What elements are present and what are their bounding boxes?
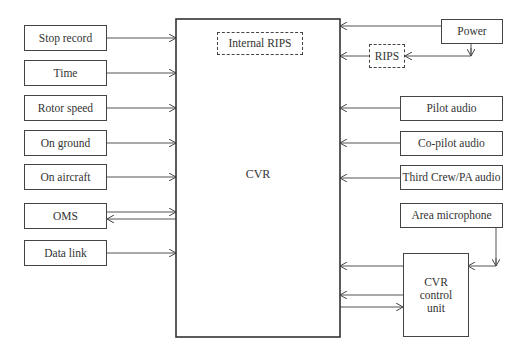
data-link-label: Data link <box>44 247 86 260</box>
copilot-audio-box: Co-pilot audio <box>400 131 503 156</box>
stop-record-box: Stop record <box>24 25 107 51</box>
copilot-audio-label: Co-pilot audio <box>418 137 485 150</box>
third-crew-audio-box: Third Crew/PA audio <box>400 165 503 190</box>
on-ground-box: On ground <box>24 130 107 156</box>
time-label: Time <box>54 67 78 80</box>
pilot-audio-label: Pilot audio <box>426 102 476 115</box>
internal-rips-box: Internal RIPS <box>217 32 303 55</box>
rotor-speed-box: Rotor speed <box>24 95 107 121</box>
rips-label: RIPS <box>375 50 399 63</box>
rips-box: RIPS <box>369 44 405 68</box>
internal-rips-label: Internal RIPS <box>229 37 292 50</box>
third-crew-audio-label: Third Crew/PA audio <box>403 171 501 184</box>
control-unit-line3: unit <box>427 302 445 315</box>
power-box: Power <box>441 19 503 44</box>
pilot-audio-box: Pilot audio <box>400 96 503 121</box>
stop-record-label: Stop record <box>39 32 92 45</box>
area-microphone-box: Area microphone <box>400 203 503 228</box>
cvr-label-area: CVR <box>176 19 340 337</box>
time-box: Time <box>24 60 107 86</box>
control-unit-line1: CVR <box>424 276 448 289</box>
cvr-label: CVR <box>246 168 271 181</box>
cvr-control-unit-box: CVR control unit <box>403 253 469 337</box>
control-unit-line2: control <box>420 289 453 302</box>
on-aircraft-label: On aircraft <box>40 171 90 184</box>
oms-label: OMS <box>53 210 78 223</box>
on-ground-label: On ground <box>41 137 91 150</box>
oms-box: OMS <box>24 203 107 229</box>
power-label: Power <box>457 25 486 38</box>
rotor-speed-label: Rotor speed <box>38 102 93 115</box>
on-aircraft-box: On aircraft <box>24 164 107 190</box>
area-microphone-label: Area microphone <box>411 209 491 222</box>
data-link-box: Data link <box>24 240 107 266</box>
